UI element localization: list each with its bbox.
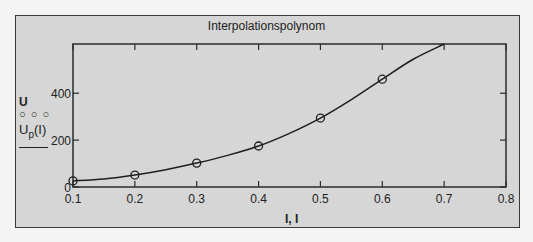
legend-up-label: Up(I) [19, 123, 69, 142]
x-tick-label: 0.3 [188, 192, 205, 206]
legend-u-label: U [19, 96, 69, 108]
data-markers [69, 75, 386, 185]
x-tick-label: 0.7 [436, 192, 453, 206]
legend-circle-markers-icon: ○ ○ ○ [19, 108, 69, 121]
x-tick-label: 0.2 [127, 192, 144, 206]
legend-line-icon [19, 147, 48, 148]
x-tick-label: 0.8 [498, 192, 515, 206]
x-tick-label: 0.6 [374, 192, 391, 206]
x-tick-label: 0.5 [312, 192, 329, 206]
interpolation-curve [73, 44, 444, 181]
legend: U ○ ○ ○ Up(I) [19, 96, 69, 148]
x-tick-label: 0.4 [250, 192, 267, 206]
plot-area: 0.10.20.30.40.50.60.70.8 0200400 [0, 0, 533, 242]
y-axis-ticks: 0200400 [51, 87, 506, 195]
x-axis-ticks: 0.10.20.30.40.50.60.70.8 [65, 44, 515, 206]
x-axis-label: I, I [285, 212, 298, 226]
